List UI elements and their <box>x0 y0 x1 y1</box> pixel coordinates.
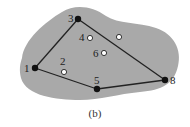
caption: (b) <box>89 107 102 120</box>
convex-hull-diagram: 1358246 (b) <box>0 0 190 127</box>
point-label-4: 4 <box>79 31 85 43</box>
gray-region <box>20 7 179 100</box>
hull-vertex-5 <box>94 86 100 92</box>
point-label-2: 2 <box>60 55 66 67</box>
point-label-6: 6 <box>93 47 99 59</box>
interior-point-4 <box>87 35 92 40</box>
hull-vertex-3 <box>75 16 81 22</box>
interior-point-6 <box>101 50 106 55</box>
interior-point-2 <box>61 69 66 74</box>
point-label-3: 3 <box>68 12 74 24</box>
hull-vertex-8 <box>162 77 168 83</box>
point-label-8: 8 <box>170 74 176 86</box>
point-label-5: 5 <box>94 74 100 86</box>
hull-vertex-1 <box>32 65 38 71</box>
interior-point-7 <box>116 34 121 39</box>
point-label-1: 1 <box>24 62 30 74</box>
